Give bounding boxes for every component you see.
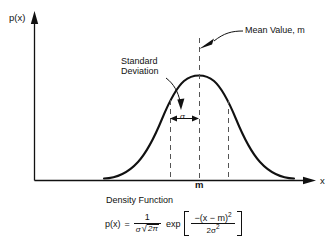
- formula-radical: √2π: [142, 224, 159, 234]
- formula-exponent-denominator: 2σ2: [204, 224, 221, 235]
- formula-bracket-group: −(x − m)2 2σ2: [184, 211, 241, 236]
- annotation-sigma-symbol: σ: [180, 113, 185, 122]
- formula-exponent-fraction: −(x − m)2 2σ2: [191, 212, 234, 235]
- caption-title: Density Function: [106, 195, 173, 205]
- formula-numerator: 1: [142, 213, 153, 222]
- bracket-right-icon: [237, 211, 242, 236]
- annotation-standard-deviation-line1: Standard: [121, 56, 158, 66]
- formula-radical-body: 2π: [147, 224, 159, 234]
- formula-denominator-sigma: σ: [136, 225, 141, 234]
- formula-exponent-denominator-power: 2: [216, 223, 220, 230]
- axis-label-y: p(x): [9, 13, 25, 24]
- gaussian-density-figure: p(x) x m Mean Value, m Standard Deviatio…: [0, 0, 336, 240]
- formula-main-fraction: 1 σ√2π: [134, 213, 161, 234]
- formula-lhs: p(x): [105, 219, 121, 229]
- formula-denominator: σ√2π: [134, 224, 161, 234]
- annotation-mean-value: Mean Value, m: [245, 25, 305, 35]
- formula-exp-keyword: exp: [166, 219, 181, 229]
- axis-label-x: x: [320, 176, 325, 187]
- x-axis: [35, 177, 317, 184]
- y-axis: [31, 11, 38, 181]
- formula-equals: =: [125, 219, 130, 229]
- x-tick-label-mean: m: [195, 180, 203, 191]
- formula-exponent-numerator: −(x − m)2: [191, 212, 234, 223]
- gaussian-curve: [104, 76, 294, 179]
- formula-exponent: −(x − m)2 2σ2: [189, 211, 236, 236]
- mean-leader-line: [199, 31, 243, 49]
- annotation-standard-deviation-line2: Deviation: [121, 66, 159, 76]
- annotation-standard-deviation: Standard Deviation: [121, 56, 159, 76]
- formula-exponent-numerator-power: 2: [228, 211, 232, 218]
- density-function-formula: p(x) = 1 σ√2π exp −(x − m)2 2σ2: [105, 211, 242, 236]
